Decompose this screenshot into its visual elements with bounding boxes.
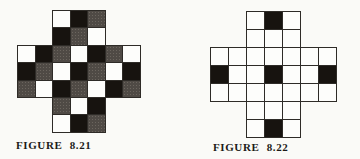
grid-cell-r6-c2 — [246, 119, 265, 138]
grid-cell-r3-c3 — [70, 62, 89, 80]
grid-cell-r3-c6 — [122, 62, 141, 80]
grid-cell-r3-c6 — [318, 65, 337, 84]
grid-cell-r2-c2 — [246, 47, 265, 66]
grid-cell-r4-c6 — [318, 83, 337, 102]
grid-cell-r0-c3 — [264, 11, 283, 30]
figure-8-22-grid — [210, 11, 337, 138]
grid-cell-r4-c3 — [70, 80, 89, 98]
figure-8-22-caption: FIGURE 8.22 — [213, 141, 288, 153]
figure-8-21-caption: FIGURE 8.21 — [16, 139, 91, 151]
grid-cell-r4-c4 — [282, 83, 301, 102]
grid-cell-r6-c3 — [264, 119, 283, 138]
grid-cell-r2-c1 — [228, 47, 247, 66]
grid-cell-r2-c6 — [318, 47, 337, 66]
grid-cell-r3-c2 — [52, 62, 71, 80]
grid-cell-r1-c2 — [246, 29, 265, 48]
grid-cell-r3-c3 — [264, 65, 283, 84]
grid-cell-r3-c4 — [87, 62, 106, 80]
grid-cell-r3-c2 — [246, 65, 265, 84]
grid-cell-r1-c3 — [70, 27, 89, 45]
grid-cell-r4-c2 — [52, 80, 71, 98]
grid-cell-r5-c2 — [246, 101, 265, 120]
grid-cell-r0-c4 — [282, 11, 301, 30]
grid-cell-r2-c0 — [17, 45, 36, 63]
grid-cell-r2-c4 — [282, 47, 301, 66]
grid-cell-r5-c4 — [87, 97, 106, 115]
grid-cell-r0-c4 — [87, 10, 106, 28]
grid-cell-r1-c4 — [282, 29, 301, 48]
figure-8-21-grid — [17, 10, 141, 133]
grid-cell-r6-c4 — [87, 114, 106, 132]
grid-cell-r6-c3 — [70, 114, 89, 132]
grid-cell-r2-c5 — [105, 45, 124, 63]
grid-cell-r0-c2 — [52, 10, 71, 28]
grid-cell-r4-c3 — [264, 83, 283, 102]
grid-cell-r3-c5 — [105, 62, 124, 80]
grid-cell-r6-c4 — [282, 119, 301, 138]
grid-cell-r0-c2 — [246, 11, 265, 30]
grid-cell-r2-c1 — [35, 45, 54, 63]
grid-cell-r4-c6 — [122, 80, 141, 98]
grid-cell-r2-c3 — [264, 47, 283, 66]
grid-cell-r3-c5 — [300, 65, 319, 84]
grid-cell-r2-c5 — [300, 47, 319, 66]
grid-cell-r2-c0 — [210, 47, 229, 66]
grid-cell-r1-c2 — [52, 27, 71, 45]
grid-cell-r3-c4 — [282, 65, 301, 84]
grid-cell-r2-c3 — [70, 45, 89, 63]
grid-cell-r5-c2 — [52, 97, 71, 115]
grid-cell-r4-c4 — [87, 80, 106, 98]
grid-cell-r3-c0 — [210, 65, 229, 84]
grid-cell-r1-c3 — [264, 29, 283, 48]
grid-cell-r4-c5 — [300, 83, 319, 102]
grid-cell-r4-c0 — [210, 83, 229, 102]
grid-cell-r4-c2 — [246, 83, 265, 102]
grid-cell-r4-c5 — [105, 80, 124, 98]
grid-cell-r5-c3 — [264, 101, 283, 120]
grid-cell-r2-c4 — [87, 45, 106, 63]
grid-cell-r3-c0 — [17, 62, 36, 80]
grid-cell-r2-c2 — [52, 45, 71, 63]
grid-cell-r0-c3 — [70, 10, 89, 28]
grid-cell-r5-c3 — [70, 97, 89, 115]
grid-cell-r5-c4 — [282, 101, 301, 120]
grid-cell-r2-c6 — [122, 45, 141, 63]
grid-cell-r4-c1 — [35, 80, 54, 98]
page: FIGURE 8.21 FIGURE 8.22 — [0, 0, 360, 159]
grid-cell-r6-c2 — [52, 114, 71, 132]
grid-cell-r4-c1 — [228, 83, 247, 102]
grid-cell-r1-c4 — [87, 27, 106, 45]
grid-cell-r3-c1 — [228, 65, 247, 84]
grid-cell-r4-c0 — [17, 80, 36, 98]
grid-cell-r3-c1 — [35, 62, 54, 80]
